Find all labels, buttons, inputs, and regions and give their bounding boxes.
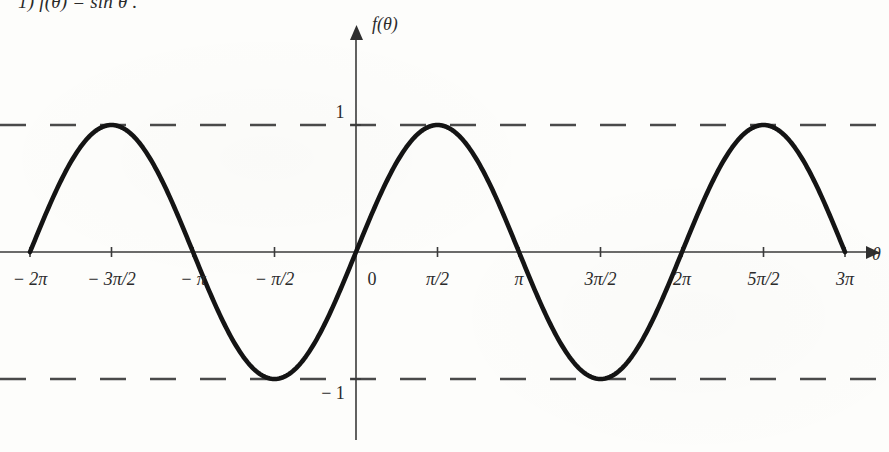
x-tick-label--pi-2: − π/2 <box>255 269 295 289</box>
x-tick-label--pi: − π <box>180 269 207 289</box>
x-tick-label-pi-2: π/2 <box>426 269 449 289</box>
y-tick-label--1: − 1 <box>321 383 345 403</box>
x-tick-label--2pi: − 2π <box>13 269 49 289</box>
x-tick-label-3pi-2: 3π/2 <box>583 269 616 289</box>
worksheet-page: 1) f(θ) = sin θ . − 2π − 3π/2 − π − π/2 … <box>0 0 889 452</box>
x-tick-label-3pi: 3π <box>835 269 855 289</box>
y-axis-arrowhead <box>350 25 363 40</box>
x-tick-label-5pi-2: 5π/2 <box>747 269 779 289</box>
y-tick-label-1: 1 <box>336 102 345 122</box>
x-axis-label: θ <box>872 244 881 264</box>
x-tick-label-0: 0 <box>368 269 377 289</box>
sine-graph: − 2π − 3π/2 − π − π/2 0 π/2 π 3π/2 2π 5π… <box>0 0 889 452</box>
x-tick-label--3pi-2: − 3π/2 <box>87 269 136 289</box>
x-tick-label-pi: π <box>514 269 524 289</box>
y-axis-label: f(θ) <box>372 14 398 35</box>
x-tick-label-2pi: 2π <box>673 269 692 289</box>
